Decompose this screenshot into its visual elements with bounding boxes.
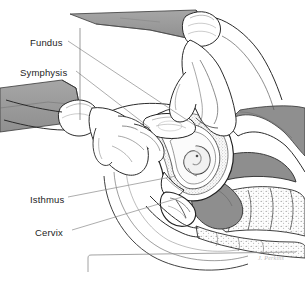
drape-sheet-right <box>232 106 305 156</box>
label-isthmus: Isthmus <box>30 195 64 205</box>
label-fundus: Fundus <box>30 38 63 48</box>
artist-signature: J. Perkins <box>258 255 284 261</box>
medical-illustration-figure: Fundus Symphysis Isthmus Cervix J. Perki… <box>0 0 305 287</box>
label-symphysis: Symphysis <box>20 68 67 78</box>
leader-line-isthmus <box>68 176 176 197</box>
label-cervix: Cervix <box>35 228 63 238</box>
